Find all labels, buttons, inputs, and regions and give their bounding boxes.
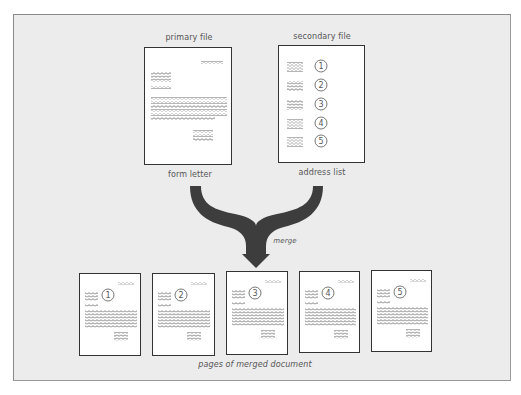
page-number: 2 <box>178 291 183 300</box>
merged-page-content: 1 <box>80 274 142 357</box>
merged-page-content: 2 <box>153 274 216 357</box>
merged-page-content: 5 <box>372 271 433 353</box>
merged-page-4: 4 <box>299 271 360 353</box>
merged-page-content: 4 <box>300 272 361 354</box>
merged-page-content: 3 <box>227 272 289 356</box>
page-number: 1 <box>105 291 110 300</box>
merged-page-5: 5 <box>371 270 432 352</box>
page-number: 5 <box>397 288 402 297</box>
merged-document-caption: pages of merged document <box>198 360 311 369</box>
merged-page-2: 2 <box>152 273 215 356</box>
merged-page-3: 3 <box>226 271 288 355</box>
merged-page-1: 1 <box>79 273 141 356</box>
page-number: 4 <box>325 289 330 298</box>
merge-label: merge <box>273 237 296 245</box>
page-number: 3 <box>252 289 257 298</box>
